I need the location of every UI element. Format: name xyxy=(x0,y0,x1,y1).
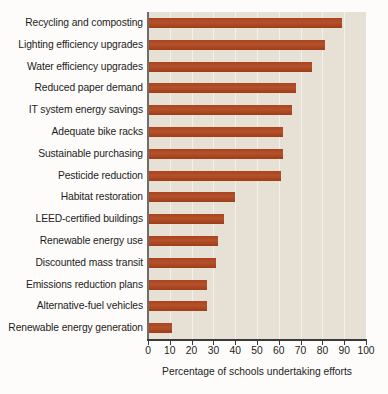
bar xyxy=(148,171,281,181)
bar xyxy=(148,127,283,137)
figure-container: Recycling and compostingLighting efficie… xyxy=(0,0,388,394)
bar xyxy=(148,40,325,50)
x-tick-label: 60 xyxy=(273,345,284,356)
x-tick-label: 40 xyxy=(229,345,240,356)
bar-row xyxy=(148,143,366,165)
x-tick-label: 30 xyxy=(208,345,219,356)
category-label: Pesticide reduction xyxy=(0,165,143,187)
category-label: Habitat restoration xyxy=(0,186,143,208)
x-tick-label: 0 xyxy=(145,345,151,356)
bar xyxy=(148,280,207,290)
bar-row xyxy=(148,252,366,274)
category-label: Recycling and composting xyxy=(0,12,143,34)
bar-row xyxy=(148,186,366,208)
bar-row xyxy=(148,77,366,99)
x-tick-label: 100 xyxy=(357,345,374,356)
bar-row xyxy=(148,165,366,187)
bar-row xyxy=(148,208,366,230)
bars-layer xyxy=(148,12,366,339)
category-label: Sustainable purchasing xyxy=(0,143,143,165)
category-label: Discounted mass transit xyxy=(0,252,143,274)
bar xyxy=(148,301,207,311)
bar-row xyxy=(148,56,366,78)
x-tick-labels: 0102030405060708090100 xyxy=(0,345,388,361)
x-tick-label: 20 xyxy=(186,345,197,356)
bar-row xyxy=(148,317,366,339)
bar-row xyxy=(148,295,366,317)
bar-chart: Recycling and compostingLighting efficie… xyxy=(0,0,388,394)
x-tick-label: 80 xyxy=(317,345,328,356)
bar xyxy=(148,214,224,224)
bar-row xyxy=(148,274,366,296)
x-tick-label: 70 xyxy=(295,345,306,356)
bar xyxy=(148,105,292,115)
category-label: Water efficiency upgrades xyxy=(0,56,143,78)
category-label: Renewable energy use xyxy=(0,230,143,252)
x-tick-label: 50 xyxy=(251,345,262,356)
category-label: Alternative-fuel vehicles xyxy=(0,295,143,317)
bar xyxy=(148,192,235,202)
x-axis-title: Percentage of schools undertaking effort… xyxy=(148,366,366,377)
bar-row xyxy=(148,121,366,143)
y-axis-line xyxy=(147,12,149,340)
bar xyxy=(148,323,172,333)
bar-row xyxy=(148,34,366,56)
category-label: Lighting efficiency upgrades xyxy=(0,34,143,56)
plot-area xyxy=(148,12,366,339)
category-label: Adequate bike racks xyxy=(0,121,143,143)
bar xyxy=(148,236,218,246)
bar-row xyxy=(148,99,366,121)
category-label: Reduced paper demand xyxy=(0,77,143,99)
category-label: IT system energy savings xyxy=(0,99,143,121)
x-tick-label: 10 xyxy=(164,345,175,356)
bar xyxy=(148,83,296,93)
bar xyxy=(148,258,216,268)
bar-row xyxy=(148,230,366,252)
bar xyxy=(148,62,312,72)
bar-row xyxy=(148,12,366,34)
category-label: Renewable energy generation xyxy=(0,317,143,339)
category-labels: Recycling and compostingLighting efficie… xyxy=(0,12,143,339)
category-label: Emissions reduction plans xyxy=(0,274,143,296)
bar xyxy=(148,149,283,159)
x-tick-label: 90 xyxy=(338,345,349,356)
category-label: LEED-certified buildings xyxy=(0,208,143,230)
bar xyxy=(148,18,342,28)
